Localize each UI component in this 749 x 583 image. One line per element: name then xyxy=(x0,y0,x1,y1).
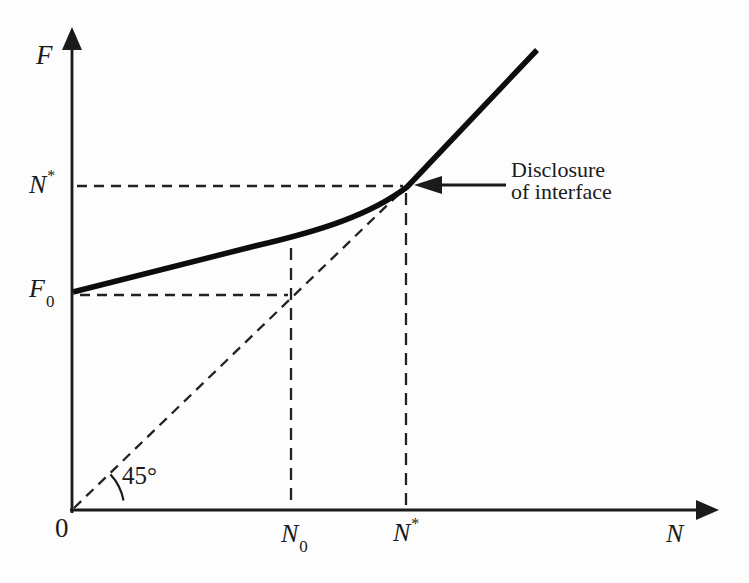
x-axis-label: N xyxy=(666,521,683,547)
annotation-disclosure: Disclosure of interface xyxy=(511,159,612,202)
y-tick-nstar-base: N xyxy=(29,170,46,199)
annotation-line-2: of interface xyxy=(511,181,612,203)
main-curve xyxy=(73,50,537,292)
figure-canvas: F N 0 N* F0 N0 N* 45° Disclosure of inte… xyxy=(0,0,749,583)
y-tick-f0-base: F xyxy=(29,274,45,303)
y-tick-nstar: N* xyxy=(29,170,54,198)
x-axis-arrowhead xyxy=(696,500,719,520)
plot-svg xyxy=(0,0,749,583)
x-tick-n0: N0 xyxy=(281,521,307,551)
x-tick-nstar-base: N xyxy=(393,518,410,547)
x-tick-n0-sub: 0 xyxy=(299,537,308,556)
y-axis-label: F xyxy=(36,42,53,69)
diagonal-45-line xyxy=(74,189,404,508)
x-tick-n0-base: N xyxy=(281,519,298,548)
y-axis-arrowhead xyxy=(62,27,82,50)
y-tick-f0: F0 xyxy=(29,276,53,306)
annotation-line-1: Disclosure xyxy=(511,159,612,181)
origin-label: 0 xyxy=(55,515,69,542)
angle-label: 45° xyxy=(122,463,157,488)
x-tick-nstar-sup: * xyxy=(411,515,419,532)
y-tick-f0-sub: 0 xyxy=(46,292,55,311)
y-tick-nstar-sup: * xyxy=(47,167,55,184)
x-tick-nstar: N* xyxy=(393,518,418,546)
